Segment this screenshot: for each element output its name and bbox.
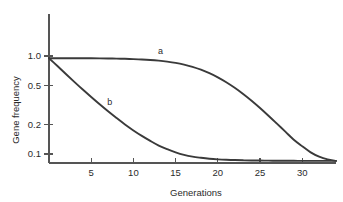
curve-label-a: a bbox=[158, 46, 163, 56]
y-axis-title: Gene frequency bbox=[10, 76, 21, 144]
x-tick-label: 15 bbox=[170, 167, 181, 178]
x-tick-label: 30 bbox=[297, 167, 308, 178]
y-tick-label: 0.2 bbox=[28, 119, 41, 130]
x-tick-label: 20 bbox=[213, 167, 224, 178]
y-tick-label: 0.1 bbox=[28, 148, 41, 159]
x-tick-label: 25 bbox=[255, 167, 266, 178]
gene-frequency-line-chart: 1.00.50.20.1 51015202530 ab Generations … bbox=[0, 0, 343, 202]
x-tick-label: 10 bbox=[128, 167, 139, 178]
y-tick-label: 1.0 bbox=[28, 50, 41, 61]
chart-figure: 1.00.50.20.1 51015202530 ab Generations … bbox=[0, 0, 343, 202]
x-tick-label: 5 bbox=[89, 167, 94, 178]
y-tick-label: 0.5 bbox=[28, 80, 41, 91]
curve-label-b: b bbox=[107, 97, 112, 107]
x-axis-title: Generations bbox=[170, 187, 222, 198]
